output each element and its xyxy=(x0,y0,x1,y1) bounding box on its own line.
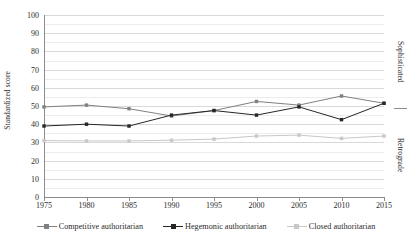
data-point-marker xyxy=(127,107,130,110)
y-tick-label: 50 xyxy=(31,102,39,111)
data-point-marker xyxy=(297,105,300,108)
y-tick-label: 30 xyxy=(31,138,39,147)
data-point-marker xyxy=(212,109,215,112)
x-tick-label: 2005 xyxy=(291,201,307,210)
x-tick-label: 1990 xyxy=(164,201,180,210)
legend-item[interactable]: Closed authoritarian xyxy=(287,222,376,231)
x-tick-label: 1980 xyxy=(79,201,95,210)
chart-legend: Competitive authoritarianHegemonic autho… xyxy=(0,222,412,231)
y-axis-title: Standardized score xyxy=(0,0,14,200)
y-tick-label: 40 xyxy=(31,120,39,129)
annotation-retrograde-text: Retrograde xyxy=(396,138,405,172)
legend-item-label: Closed authoritarian xyxy=(309,222,376,231)
y-tick-label: 70 xyxy=(31,65,39,74)
y-tick-label: 80 xyxy=(31,47,39,56)
series-layer xyxy=(44,15,384,197)
y-tick-label: 60 xyxy=(31,83,39,92)
data-point-marker xyxy=(340,137,343,140)
data-point-marker xyxy=(42,105,45,108)
data-point-marker xyxy=(255,100,258,103)
data-point-marker xyxy=(170,113,173,116)
series-line xyxy=(44,96,384,116)
series-line xyxy=(44,103,384,126)
data-point-marker xyxy=(85,103,88,106)
data-point-marker xyxy=(42,139,45,142)
y-axis-title-text: Standardized score xyxy=(3,71,12,130)
y-tick-label: 100 xyxy=(27,11,39,20)
data-point-marker xyxy=(255,113,258,116)
x-tick-label: 2000 xyxy=(249,201,265,210)
data-point-marker xyxy=(127,124,130,127)
series-closed-authoritarian xyxy=(42,133,385,142)
data-point-marker xyxy=(382,102,385,105)
legend-item-label: Competitive authoritarian xyxy=(59,222,143,231)
legend-swatch-icon xyxy=(287,222,307,231)
annotation-retrograde: Retrograde xyxy=(392,110,408,200)
plot-area: 0102030405060708090100 19751980198519901… xyxy=(44,15,384,197)
data-point-marker xyxy=(340,118,343,121)
legend-item[interactable]: Competitive authoritarian xyxy=(37,222,143,231)
data-point-marker xyxy=(255,134,258,137)
y-tick-label: 90 xyxy=(31,29,39,38)
x-tick-label: 2015 xyxy=(376,201,392,210)
data-point-marker xyxy=(85,123,88,126)
data-point-marker xyxy=(127,139,130,142)
side-label-divider xyxy=(394,108,407,109)
annotation-sophisticated-text: Sophisticated xyxy=(396,41,405,83)
annotation-sophisticated: Sophisticated xyxy=(392,16,408,108)
data-point-marker xyxy=(382,134,385,137)
y-tick-label: 10 xyxy=(31,174,39,183)
legend-swatch-icon xyxy=(163,222,183,231)
x-tick-label: 2010 xyxy=(334,201,350,210)
legend-swatch-icon xyxy=(37,222,57,231)
x-tick-label: 1975 xyxy=(36,201,52,210)
y-tick-label: 20 xyxy=(31,156,39,165)
series-competitive-authoritarian xyxy=(42,94,385,117)
data-point-marker xyxy=(340,94,343,97)
data-point-marker xyxy=(42,124,45,127)
data-point-marker xyxy=(212,137,215,140)
data-point-marker xyxy=(170,139,173,142)
legend-item[interactable]: Hegemonic authoritarian xyxy=(163,222,267,231)
data-point-marker xyxy=(85,139,88,142)
legend-item-label: Hegemonic authoritarian xyxy=(185,222,267,231)
line-chart: Standardized score 010203040506070809010… xyxy=(0,0,412,245)
x-tick-label: 1985 xyxy=(121,201,137,210)
data-point-marker xyxy=(297,133,300,136)
x-tick-label: 1995 xyxy=(206,201,222,210)
